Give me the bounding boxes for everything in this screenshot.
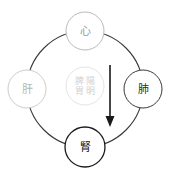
node-heart: 心: [66, 12, 104, 50]
node-kidney-label: 腎: [80, 141, 91, 154]
node-lung-label: 肺: [138, 83, 149, 96]
node-heart-label: 心: [80, 25, 91, 38]
arrow-head: [106, 116, 115, 127]
center-char-spleen: 脾: [75, 75, 84, 86]
node-lung: 肺: [124, 70, 162, 108]
center-char-ming: 明: [86, 86, 95, 96]
descending-arrow-icon: [106, 65, 115, 127]
center-char-stomach: 胃: [75, 86, 84, 96]
node-kidney: 腎: [65, 127, 105, 167]
node-liver-label: 肝: [22, 83, 33, 96]
node-liver: 肝: [8, 70, 46, 108]
center-label-group: 脾 胃 陽 明: [75, 75, 95, 96]
diagram-canvas: 脾 胃 陽 明 心 肝 肺 腎: [0, 0, 170, 178]
tcm-organ-cycle-diagram: 脾 胃 陽 明 心 肝 肺 腎: [0, 0, 170, 178]
center-char-yang: 陽: [86, 76, 95, 86]
